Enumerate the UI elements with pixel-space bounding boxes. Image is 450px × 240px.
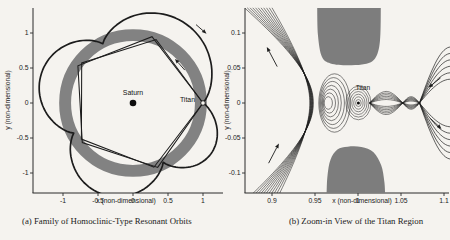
subplot-a: -1-0.500.51-1-0.500.51 [17,8,223,204]
manifold-tails [420,47,450,159]
caption-a: (a) Family of Homoclinic-Type Resonant O… [22,217,182,226]
svg-text:0.5: 0.5 [19,64,29,71]
lens-loops [319,74,350,132]
svg-text:-0.1: -0.1 [229,169,241,176]
titan-label-a: Titan [165,96,195,103]
caption-b: (b) Zoom-in View of the Titan Region [280,217,432,226]
plot-area-b [245,8,450,198]
yaxis-label-b: y (non-dimensional) [223,70,230,130]
svg-text:1.1: 1.1 [439,197,449,204]
manifold-fan [245,8,314,198]
forbidden-region-top [317,8,381,65]
saturn-label: Saturn [108,89,158,96]
titan-label-b: Titan [347,85,379,92]
svg-text:-0.05: -0.05 [225,134,241,141]
figure-page: { "figure": { "background": "#f5f3ef", "… [0,0,450,240]
svg-text:0.9: 0.9 [267,197,277,204]
svg-text:0.1: 0.1 [231,29,241,36]
svg-text:-0.5: -0.5 [17,134,29,141]
titan-dot-a [201,101,206,106]
titan-dot-b [357,102,360,105]
braid-loops [370,91,420,114]
plot-area-a [39,13,217,197]
forbidden-region-bottom [327,146,386,193]
yaxis-label-a: y (non-dimensional) [4,70,11,130]
svg-text:-1: -1 [22,169,28,176]
xaxis-label-a: x (non-dimensional) [56,197,196,204]
svg-text:1: 1 [25,29,29,36]
saturn-dot [130,100,137,107]
svg-text:0: 0 [25,99,29,106]
subplot-b: 0.90.9511.051.1-0.1-0.0500.050.1 [225,8,450,204]
xaxis-label-b: x (non-dimensional) [292,197,432,204]
svg-text:0: 0 [237,99,241,106]
svg-text:1: 1 [201,197,205,204]
